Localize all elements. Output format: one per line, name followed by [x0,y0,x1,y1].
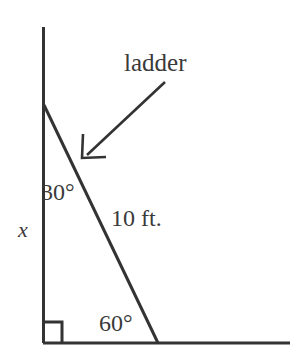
callout-arrowhead-icon [82,134,106,158]
vertical-side-label: x [18,219,28,241]
right-angle-marker-icon [43,322,62,342]
callout-arrow-shaft [87,82,165,155]
hypotenuse-length-label: 10 ft. [111,206,162,230]
top-angle-label: 30° [41,180,75,204]
geometry-diagram: ladder 30° 10 ft. x 60° [0,0,304,361]
bottom-angle-label: 60° [99,311,133,335]
ladder-callout-label: ladder [124,50,186,75]
